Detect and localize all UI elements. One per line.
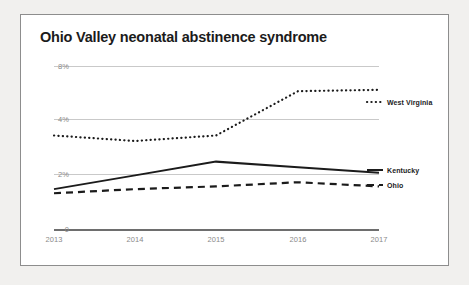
series-line-kentucky <box>54 162 379 190</box>
series-lines <box>21 15 450 267</box>
series-label-ohio: Ohio <box>387 182 403 189</box>
series-label-west-virginia: West Virginia <box>387 99 432 106</box>
series-line-ohio <box>54 182 379 193</box>
plot-area: 8% 4% 2% 0 2013 2014 2015 2016 2017 West… <box>21 15 450 267</box>
series-label-kentucky: Kentucky <box>387 167 419 174</box>
chart-card: Ohio Valley neonatal abstinence syndrome… <box>20 14 449 266</box>
series-line-west-virginia <box>54 90 379 141</box>
